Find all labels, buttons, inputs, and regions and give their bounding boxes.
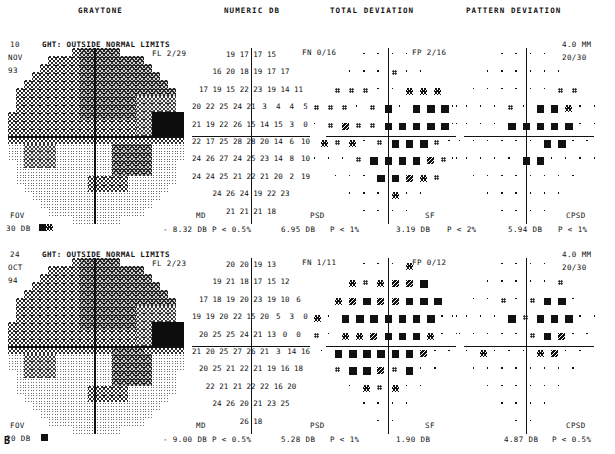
graytone-cell xyxy=(56,322,64,330)
deviation-symbol xyxy=(377,140,382,145)
graytone-cell xyxy=(64,370,72,378)
graytone-cell xyxy=(152,314,160,322)
graytone-cell xyxy=(168,112,176,120)
deviation-symbol xyxy=(551,157,552,158)
numeric-db-value: 17 xyxy=(278,67,292,76)
graytone-cell xyxy=(64,282,72,290)
deviation-symbol xyxy=(501,298,506,303)
numeric-db-value: 20 xyxy=(271,172,285,181)
graytone-cell xyxy=(80,88,88,96)
numeric-db-value: 26 xyxy=(230,120,244,129)
graytone-cell xyxy=(136,266,144,274)
graytone-cell xyxy=(120,314,128,322)
numeric-db-value: 19 xyxy=(264,295,278,304)
graytone-cell xyxy=(32,104,40,112)
graytone-cell xyxy=(48,120,56,128)
graytone-cell xyxy=(48,282,56,290)
graytone-cell xyxy=(40,354,48,362)
numeric-db-value: 22 xyxy=(190,137,204,146)
numeric-db-value: 0 xyxy=(298,120,312,129)
graytone-cell xyxy=(72,314,80,322)
deviation-symbol xyxy=(515,402,516,403)
deviation-symbol xyxy=(558,367,559,368)
graytone-cell xyxy=(72,192,80,200)
deviation-symbol xyxy=(356,333,363,340)
numeric-db-value: 13 xyxy=(264,260,278,269)
numeric-db-value: 24 xyxy=(237,330,251,339)
graytone-cell xyxy=(64,56,72,64)
graytone-cell xyxy=(80,394,88,402)
deviation-symbol xyxy=(392,402,393,403)
graytone-cell xyxy=(112,48,120,56)
graytone-cell xyxy=(24,290,32,298)
numeric-db-value: 16 xyxy=(271,382,285,391)
deviation-symbol xyxy=(420,70,421,71)
numeric-db-value: 19 xyxy=(264,85,278,94)
deviation-symbol xyxy=(544,192,545,193)
graytone-cell xyxy=(176,362,184,370)
graytone-cell xyxy=(104,120,112,128)
graytone-cell xyxy=(56,144,64,152)
deviation-symbol xyxy=(572,88,577,93)
deviation-symbol xyxy=(530,367,531,368)
deviation-symbol xyxy=(530,210,531,211)
graytone-cell xyxy=(168,298,176,306)
graytone-cell xyxy=(160,330,168,338)
cpsd-value-bottom: 4.87 DB xyxy=(504,435,538,444)
graytone-cell xyxy=(136,274,144,282)
numeric-db-value: 25 xyxy=(278,399,292,408)
deviation-symbol xyxy=(452,315,453,316)
graytone-cell xyxy=(120,338,128,346)
graytone-cell xyxy=(8,338,16,346)
deviation-symbol xyxy=(356,123,361,128)
graytone-cell xyxy=(160,128,168,136)
deviation-symbol xyxy=(328,123,333,128)
graytone-cell xyxy=(112,282,120,290)
numeric-db-value: 17 xyxy=(196,295,210,304)
graytone-cell xyxy=(64,128,72,136)
graytone-cell xyxy=(128,298,136,306)
graytone-cell xyxy=(24,394,32,402)
graytone-cell xyxy=(96,266,104,274)
graytone-cell xyxy=(64,330,72,338)
column-header-pattern-deviation: PATTERN DEVIATION xyxy=(466,6,561,15)
deviation-symbol xyxy=(342,105,347,110)
graytone-cell xyxy=(128,330,136,338)
deviation-symbol xyxy=(314,157,315,158)
graytone-cell xyxy=(104,80,112,88)
graytone-cell xyxy=(64,208,72,216)
deviation-symbol xyxy=(530,70,531,71)
graytone-cell xyxy=(144,386,152,394)
graytone-cell xyxy=(24,314,32,322)
deviation-symbol xyxy=(565,105,572,112)
graytone-cell xyxy=(56,112,64,120)
graytone-cell xyxy=(72,426,80,434)
numeric-db-value: 21 xyxy=(230,382,244,391)
graytone-cell xyxy=(104,274,112,282)
graytone-cell xyxy=(168,168,176,176)
graytone-cell xyxy=(136,104,144,112)
deviation-symbol xyxy=(594,123,595,124)
graytone-cell xyxy=(56,402,64,410)
graytone-cell xyxy=(152,168,160,176)
numeric-db-value: 23 xyxy=(264,399,278,408)
numeric-db-value: 19 xyxy=(251,189,265,198)
graytone-cell xyxy=(128,282,136,290)
numeric-db-plot-top: 1917171516201819171717191522231914112022… xyxy=(192,48,310,224)
graytone-cell xyxy=(128,56,136,64)
graytone-cell xyxy=(80,80,88,88)
deviation-symbol xyxy=(523,315,528,320)
graytone-cell xyxy=(128,290,136,298)
graytone-cell xyxy=(96,338,104,346)
graytone-cell xyxy=(48,354,56,362)
graytone-cell xyxy=(16,96,24,104)
deviation-symbol xyxy=(515,70,516,71)
graytone-cell xyxy=(112,386,120,394)
deviation-symbol xyxy=(537,157,545,165)
deviation-symbol xyxy=(434,367,435,368)
numeric-db-value: 21 xyxy=(237,207,251,216)
graytone-cell xyxy=(128,410,136,418)
graytone-cell xyxy=(40,160,48,168)
graytone-cell xyxy=(136,56,144,64)
graytone-cell xyxy=(120,410,128,418)
